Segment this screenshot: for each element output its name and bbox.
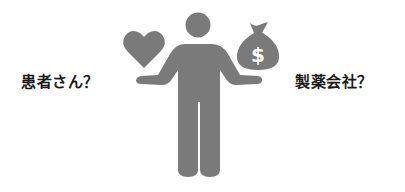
person-balancing-icon: $ (0, 0, 405, 192)
dollar-sign-icon: $ (251, 43, 265, 67)
right-leg-icon (200, 100, 220, 177)
head-icon (186, 13, 211, 38)
left-leg-icon (178, 100, 198, 177)
heart-icon (123, 31, 165, 68)
